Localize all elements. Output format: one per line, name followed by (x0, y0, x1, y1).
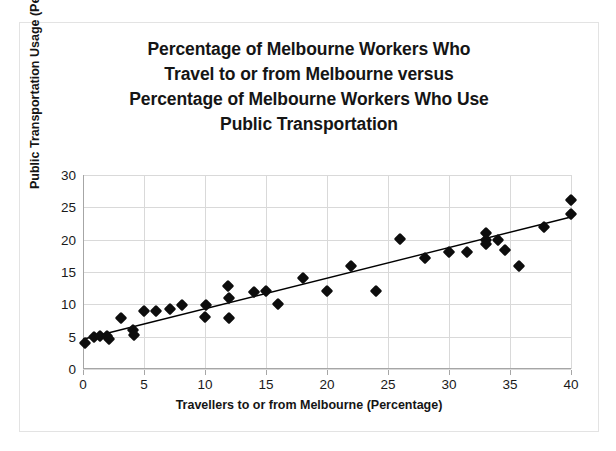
y-axis-title: Public Transportation Usage (Percentae) (28, 0, 46, 189)
x-axis-tick-label: 0 (79, 377, 87, 392)
y-axis-tick-label: 0 (68, 362, 76, 377)
x-axis-tick (327, 370, 328, 375)
x-axis-tick (205, 370, 206, 375)
y-axis-tick-label: 15 (61, 265, 76, 280)
y-axis-tick-label: 25 (61, 200, 76, 215)
x-axis-tick-label: 5 (140, 377, 148, 392)
x-axis-tick (571, 370, 572, 375)
x-axis-tick-label: 35 (502, 377, 517, 392)
x-axis-tick-label: 40 (563, 377, 578, 392)
x-axis-tick (510, 370, 511, 375)
chart-title-line-2: Travel to or from Melbourne versus (20, 62, 598, 87)
x-axis-tick-label: 15 (258, 377, 273, 392)
x-axis-tick (83, 370, 84, 375)
x-axis-title: Travellers to or from Melbourne (Percent… (20, 398, 598, 412)
chart-container: Percentage of Melbourne Workers Who Trav… (19, 22, 599, 432)
x-axis-tick-label: 25 (380, 377, 395, 392)
x-axis-tick (144, 370, 145, 375)
chart-title-line-1: Percentage of Melbourne Workers Who (20, 37, 598, 62)
chart-title: Percentage of Melbourne Workers Who Trav… (20, 37, 598, 137)
x-axis-tick (449, 370, 450, 375)
y-axis-tick-label: 10 (61, 297, 76, 312)
chart-title-line-3: Percentage of Melbourne Workers Who Use (20, 87, 598, 112)
x-axis-tick (388, 370, 389, 375)
y-axis-tick-label: 20 (61, 232, 76, 247)
x-axis-tick-label: 20 (319, 377, 334, 392)
x-axis-tick-label: 30 (441, 377, 456, 392)
x-axis-tick (266, 370, 267, 375)
y-axis-tick-label: 5 (68, 329, 76, 344)
x-axis-tick-label: 10 (197, 377, 212, 392)
trendline (83, 175, 571, 369)
plot-area: 051015202530 0510152025303540 (83, 175, 571, 369)
y-axis-tick-label: 30 (61, 168, 76, 183)
chart-title-line-4: Public Transportation (20, 112, 598, 137)
